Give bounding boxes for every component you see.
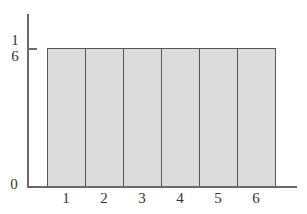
y-axis — [27, 14, 29, 187]
x-tick-label-6: 6 — [237, 190, 275, 207]
bar-4 — [161, 48, 200, 186]
y-tick-label-zero: 0 — [8, 176, 20, 193]
y-tick-label-denominator: 6 — [9, 48, 21, 65]
bar-2 — [85, 48, 124, 186]
bar-3 — [123, 48, 162, 186]
bar-6 — [237, 48, 276, 186]
x-tick-label-3: 3 — [123, 190, 161, 207]
bar-5 — [199, 48, 238, 186]
x-tick-label-5: 5 — [199, 190, 237, 207]
x-axis — [27, 186, 297, 188]
x-tick-label-4: 4 — [161, 190, 199, 207]
y-tick-label-numerator: 1 — [9, 32, 21, 49]
x-tick-label-1: 1 — [47, 190, 85, 207]
y-tick-one-sixth — [27, 48, 37, 50]
bar-1 — [47, 48, 86, 186]
x-tick-label-2: 2 — [85, 190, 123, 207]
